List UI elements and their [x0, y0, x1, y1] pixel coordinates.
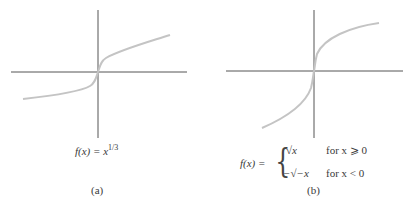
case-2-expr: −√−x — [283, 167, 309, 179]
case-1-expr: √x — [286, 144, 297, 156]
panel-b-caption: (b) — [307, 184, 320, 196]
panel-a-formula: f(x) = x1/3 — [75, 143, 118, 157]
formula-lhs: f(x) = x — [75, 145, 108, 157]
panel-a-axes — [11, 10, 187, 138]
case-2-condition: for x < 0 — [326, 167, 364, 179]
panel-a-curve-cube-root — [23, 35, 170, 99]
panel-a-caption: (a) — [91, 184, 103, 196]
formula-exponent: 1/3 — [108, 143, 118, 152]
case-1-condition: for x ⩾ 0 — [326, 144, 367, 157]
panel-b-formula-lhs: f(x) = — [240, 157, 265, 169]
panel-b-curve-signed-sqrt — [262, 23, 379, 128]
